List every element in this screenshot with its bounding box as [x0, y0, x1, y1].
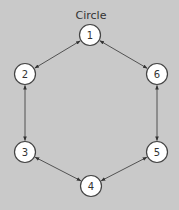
node-label: 5 [154, 147, 160, 158]
edge-6-1 [100, 41, 147, 68]
node-4: 4 [81, 176, 102, 197]
node-label: 1 [87, 30, 93, 41]
node-5: 5 [147, 142, 168, 163]
edge-1-2 [35, 41, 80, 68]
node-3: 3 [15, 142, 36, 163]
diagram-title: Circle [76, 9, 107, 22]
node-1: 1 [80, 25, 101, 46]
node-label: 6 [154, 69, 160, 80]
edge-4-5 [101, 157, 147, 180]
edge-3-4 [35, 157, 81, 180]
node-label: 2 [22, 69, 28, 80]
node-label: 3 [22, 147, 28, 158]
node-label: 4 [88, 181, 94, 192]
node-2: 2 [15, 64, 36, 85]
nodes-group: 123456 [15, 25, 168, 197]
edges-group [25, 41, 157, 181]
node-6: 6 [147, 64, 168, 85]
circle-diagram: Circle 123456 [0, 0, 179, 210]
